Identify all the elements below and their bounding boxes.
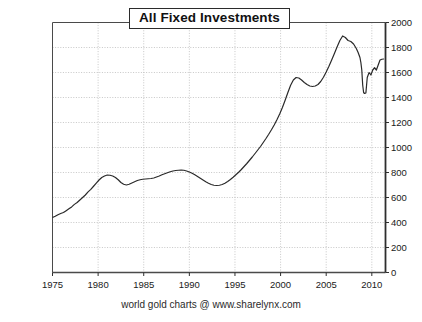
y-tick-label: 2000 (391, 17, 412, 28)
x-tick-label: 2010 (361, 279, 382, 290)
y-tick-label: 1400 (391, 92, 412, 103)
y-tick-label: 1000 (391, 142, 412, 153)
x-tick-label: 1980 (88, 279, 109, 290)
chart-title-box: All Fixed Investments (129, 8, 290, 29)
chart-root: 0200400600800100012001400160018002000 19… (0, 0, 422, 322)
chart-background (0, 0, 422, 322)
y-tick-label: 0 (391, 267, 396, 278)
y-tick-label: 1200 (391, 117, 412, 128)
x-tick-label: 1975 (42, 279, 63, 290)
y-tick-label: 600 (391, 192, 407, 203)
page-title: All Fixed Investments (139, 11, 280, 25)
y-tick-label: 400 (391, 217, 407, 228)
x-tick-label: 2000 (270, 279, 291, 290)
x-tick-label: 2005 (316, 279, 337, 290)
y-tick-label: 1600 (391, 67, 412, 78)
x-tick-label: 1990 (179, 279, 200, 290)
y-tick-label: 800 (391, 167, 407, 178)
chart-source-footer: world gold charts @ www.sharelynx.com (0, 299, 422, 310)
y-tick-label: 1800 (391, 42, 412, 53)
x-tick-label: 1995 (224, 279, 245, 290)
x-tick-label: 1985 (133, 279, 154, 290)
investments-line-chart: 0200400600800100012001400160018002000 19… (0, 0, 422, 322)
y-tick-label: 200 (391, 242, 407, 253)
